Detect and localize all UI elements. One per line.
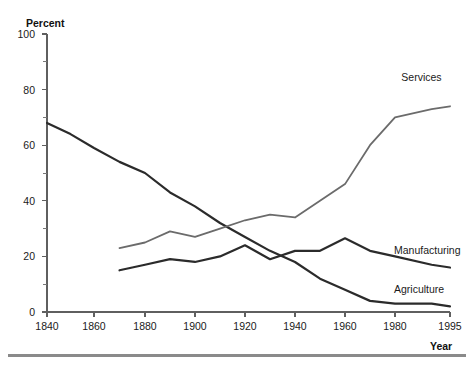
x-tick-label: 1980: [375, 321, 415, 332]
y-axis-title: Percent: [26, 18, 65, 29]
series-lines-group: [47, 106, 450, 306]
y-axis-ticks: [42, 34, 47, 312]
x-tick-label: 1920: [225, 321, 265, 332]
y-tick-label: 80: [11, 85, 35, 96]
series-annotation-agriculture: Agriculture: [394, 284, 444, 295]
y-tick-label: 40: [11, 196, 35, 207]
x-axis-ticks: [47, 312, 450, 317]
series-line-services: [120, 106, 451, 248]
x-tick-label: 1960: [325, 321, 365, 332]
series-annotation-manufacturing: Manufacturing: [394, 245, 461, 256]
x-tick-label: 1900: [175, 321, 215, 332]
x-axis-title: Year: [430, 341, 452, 352]
y-tick-label: 60: [11, 140, 35, 151]
x-tick-label: 1880: [125, 321, 165, 332]
x-tick-label: 1995: [430, 321, 470, 332]
y-tick-label: 0: [11, 307, 35, 318]
y-tick-label: 20: [11, 251, 35, 262]
chart-root: 0204060801001840186018801900192019401960…: [0, 0, 474, 368]
series-annotation-services: Services: [401, 72, 441, 83]
x-tick-label: 1840: [27, 321, 67, 332]
y-tick-label: 100: [11, 29, 35, 40]
x-tick-label: 1940: [275, 321, 315, 332]
chart-canvas: [0, 0, 474, 368]
axes-group: [47, 34, 450, 312]
footer-divider: [8, 354, 466, 357]
x-tick-label: 1860: [74, 321, 114, 332]
series-line-agriculture: [47, 123, 450, 306]
